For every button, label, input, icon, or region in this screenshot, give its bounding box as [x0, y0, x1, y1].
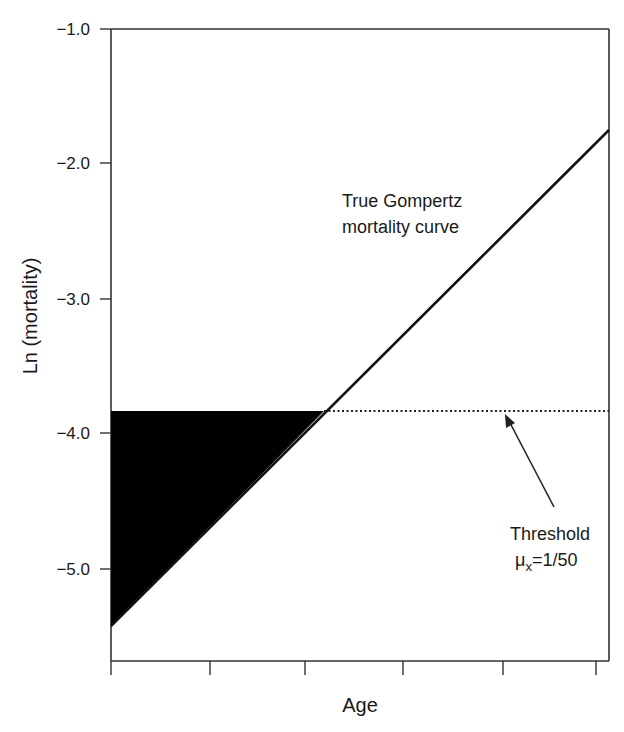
- curve-annotation-line2: mortality curve: [342, 217, 459, 237]
- curve-annotation-line1: True Gompertz: [342, 191, 462, 211]
- y-axis-tick-labels: −1.0 −2.0 −3.0 −4.0 −5.0: [56, 20, 90, 579]
- y-tick-label: −1.0: [56, 20, 90, 39]
- y-tick-label: −2.0: [56, 154, 90, 173]
- x-axis-title: Age: [342, 694, 378, 716]
- x-axis-ticks: [111, 661, 596, 675]
- y-tick-label: −5.0: [56, 560, 90, 579]
- y-axis-ticks: [100, 29, 111, 569]
- threshold-annotation-line2: μx=1/50: [515, 550, 577, 574]
- y-tick-label: −4.0: [56, 424, 90, 443]
- threshold-annotation-line1: Threshold: [510, 524, 590, 544]
- threshold-value: =1/50: [532, 550, 578, 570]
- mortality-chart: −1.0 −2.0 −3.0 −4.0 −5.0 Age Ln (mortali…: [0, 0, 624, 732]
- y-axis-title: Ln (mortality): [19, 258, 41, 375]
- mu-symbol: μ: [515, 550, 525, 570]
- threshold-arrow: [505, 414, 554, 507]
- arrow-head-icon: [505, 414, 515, 428]
- y-tick-label: −3.0: [56, 290, 90, 309]
- arrow-shaft: [509, 421, 554, 507]
- threshold-annotation: Threshold μx=1/50: [510, 524, 590, 574]
- curve-annotation: True Gompertz mortality curve: [342, 191, 462, 237]
